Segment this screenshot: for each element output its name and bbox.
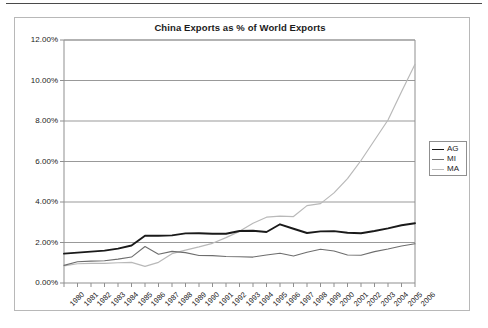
y-axis-tick-label: 10.00%: [14, 76, 58, 85]
legend-item-mi[interactable]: MI: [432, 154, 466, 164]
legend-label-ag: AG: [447, 144, 459, 154]
legend-label-mi: MI: [447, 154, 456, 164]
series-line-ma: [64, 64, 415, 266]
y-axis-tick-label: 4.00%: [14, 197, 58, 206]
legend-item-ag[interactable]: AG: [432, 144, 466, 154]
legend-label-ma: MA: [447, 164, 459, 174]
y-axis-tick-label: 2.00%: [14, 238, 58, 247]
page-canvas: China Exports as % of World Exports AG M…: [0, 0, 488, 328]
y-axis-tick-label: 12.00%: [14, 35, 58, 44]
y-axis-tick-label: 6.00%: [14, 157, 58, 166]
chart-plot-area: [14, 17, 470, 311]
y-axis-tick-label: 0.00%: [14, 278, 58, 287]
series-line-ag: [64, 223, 415, 253]
page-top-rule: [6, 3, 482, 4]
legend-swatch-mi: [432, 159, 444, 160]
chart-legend[interactable]: AG MI MA: [429, 141, 467, 176]
series-line-mi: [64, 244, 415, 266]
legend-item-ma[interactable]: MA: [432, 164, 466, 174]
y-axis-tick-label: 8.00%: [14, 116, 58, 125]
legend-swatch-ma: [432, 169, 444, 170]
legend-swatch-ag: [432, 149, 444, 150]
